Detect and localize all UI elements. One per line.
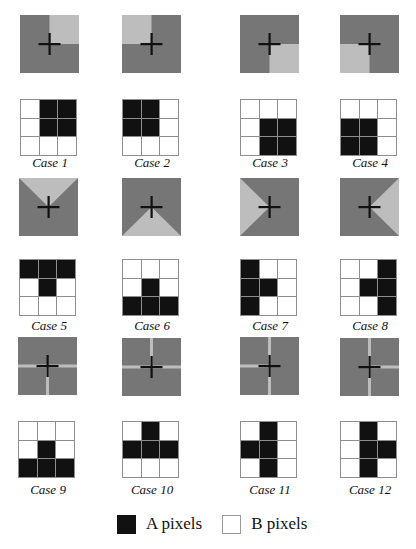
a-pixel-cell bbox=[123, 100, 141, 118]
case-caption: Case 11 bbox=[220, 483, 320, 497]
b-pixel-cell bbox=[38, 422, 56, 440]
crosshair-icon bbox=[240, 337, 299, 395]
a-pixel-cell bbox=[58, 119, 76, 137]
b-pixel-cell bbox=[241, 422, 259, 440]
a-pixel-cell bbox=[278, 119, 296, 137]
b-pixel-cell bbox=[160, 279, 178, 297]
a-pixel-cell bbox=[360, 422, 378, 440]
b-pixel-cell bbox=[341, 422, 359, 440]
a-pixel-cell bbox=[38, 459, 56, 477]
a-pixel-cell bbox=[260, 441, 278, 459]
crosshair-icon bbox=[122, 15, 181, 73]
b-pixel-cell bbox=[19, 422, 37, 440]
case-caption: Case 9 bbox=[0, 483, 98, 497]
a-pixel-cell bbox=[57, 260, 75, 278]
b-pixel-cell bbox=[278, 260, 296, 278]
a-pixel-cell bbox=[360, 137, 378, 155]
crosshair-icon bbox=[340, 338, 399, 396]
pattern-image bbox=[122, 338, 181, 396]
a-pixel-cell bbox=[260, 119, 278, 137]
pattern-image bbox=[18, 337, 77, 395]
b-pixel-cell bbox=[278, 459, 296, 477]
case-caption: Case 1 bbox=[0, 156, 100, 170]
b-pixel-cell bbox=[160, 422, 178, 440]
crosshair-icon bbox=[18, 337, 77, 395]
case-caption: Case 10 bbox=[102, 483, 202, 497]
a-pixel-cell bbox=[142, 100, 160, 118]
b-pixel-cell bbox=[56, 422, 74, 440]
b-pixel-cell bbox=[341, 100, 359, 118]
b-pixel-cell bbox=[123, 459, 141, 477]
b-pixel-cell bbox=[160, 100, 178, 118]
crosshair-icon bbox=[122, 338, 181, 396]
a-pixel-cell bbox=[360, 119, 378, 137]
a-pixel-cell bbox=[19, 459, 37, 477]
crosshair-icon bbox=[340, 15, 399, 73]
b-pixel-cell bbox=[341, 441, 359, 459]
a-pixel-cell bbox=[160, 297, 178, 315]
a-pixel-cell bbox=[142, 297, 160, 315]
pixel-grid bbox=[340, 99, 397, 156]
pixel-grid bbox=[18, 421, 75, 478]
a-pixel-cell bbox=[360, 441, 378, 459]
b-pixel-cell bbox=[57, 279, 75, 297]
b-pixel-cell bbox=[57, 297, 75, 315]
a-pixel-cell bbox=[142, 279, 160, 297]
a-pixel-cell bbox=[20, 260, 38, 278]
b-pixel-cell bbox=[142, 137, 160, 155]
a-pixel-cell bbox=[378, 297, 396, 315]
b-pixel-cell bbox=[260, 100, 278, 118]
b-pixel-cell bbox=[142, 459, 160, 477]
b-pixel-cell bbox=[278, 422, 296, 440]
crosshair-icon bbox=[122, 178, 181, 236]
crosshair-icon bbox=[19, 178, 78, 236]
case-caption: Case 4 bbox=[320, 156, 416, 170]
b-pixel-cell bbox=[142, 260, 160, 278]
a-pixel-swatch-icon bbox=[117, 515, 136, 534]
pixel-grid bbox=[122, 421, 179, 478]
b-pixel-cell bbox=[20, 297, 38, 315]
case-caption: Case 6 bbox=[102, 319, 202, 333]
a-pixel-cell bbox=[40, 119, 58, 137]
b-pixel-cell bbox=[260, 297, 278, 315]
a-pixel-cell bbox=[260, 459, 278, 477]
a-pixel-cell bbox=[241, 441, 259, 459]
b-pixel-cell bbox=[360, 297, 378, 315]
a-pixel-cell bbox=[260, 422, 278, 440]
pixel-grid bbox=[240, 99, 297, 156]
pattern-image bbox=[19, 178, 78, 236]
b-pixel-cell bbox=[378, 459, 396, 477]
a-pixel-cell bbox=[378, 260, 396, 278]
b-pixel-cell bbox=[123, 279, 141, 297]
b-pixel-cell bbox=[39, 297, 57, 315]
b-pixel-cell bbox=[378, 100, 396, 118]
legend-a-label: A pixels bbox=[146, 514, 202, 534]
a-pixel-cell bbox=[123, 441, 141, 459]
b-pixel-cell bbox=[21, 100, 39, 118]
b-pixel-cell bbox=[40, 137, 58, 155]
b-pixel-cell bbox=[241, 100, 259, 118]
a-pixel-cell bbox=[378, 279, 396, 297]
pixel-grid bbox=[122, 259, 179, 316]
case-caption: Case 12 bbox=[320, 483, 416, 497]
b-pixel-cell bbox=[360, 100, 378, 118]
crosshair-icon bbox=[340, 178, 399, 236]
a-pixel-cell bbox=[142, 422, 160, 440]
a-pixel-cell bbox=[378, 441, 396, 459]
a-pixel-cell bbox=[160, 441, 178, 459]
b-pixel-cell bbox=[260, 260, 278, 278]
b-pixel-cell bbox=[360, 260, 378, 278]
b-pixel-cell bbox=[341, 260, 359, 278]
legend-b-label: B pixels bbox=[251, 514, 307, 534]
pattern-image bbox=[340, 15, 399, 73]
b-pixel-cell bbox=[123, 260, 141, 278]
pattern-image bbox=[122, 178, 181, 236]
b-pixel-cell bbox=[278, 100, 296, 118]
b-pixel-cell bbox=[19, 441, 37, 459]
case-caption: Case 2 bbox=[102, 156, 202, 170]
b-pixel-swatch-icon bbox=[222, 515, 241, 534]
b-pixel-cell bbox=[123, 137, 141, 155]
b-pixel-cell bbox=[341, 297, 359, 315]
pattern-image bbox=[240, 15, 299, 73]
b-pixel-cell bbox=[21, 137, 39, 155]
